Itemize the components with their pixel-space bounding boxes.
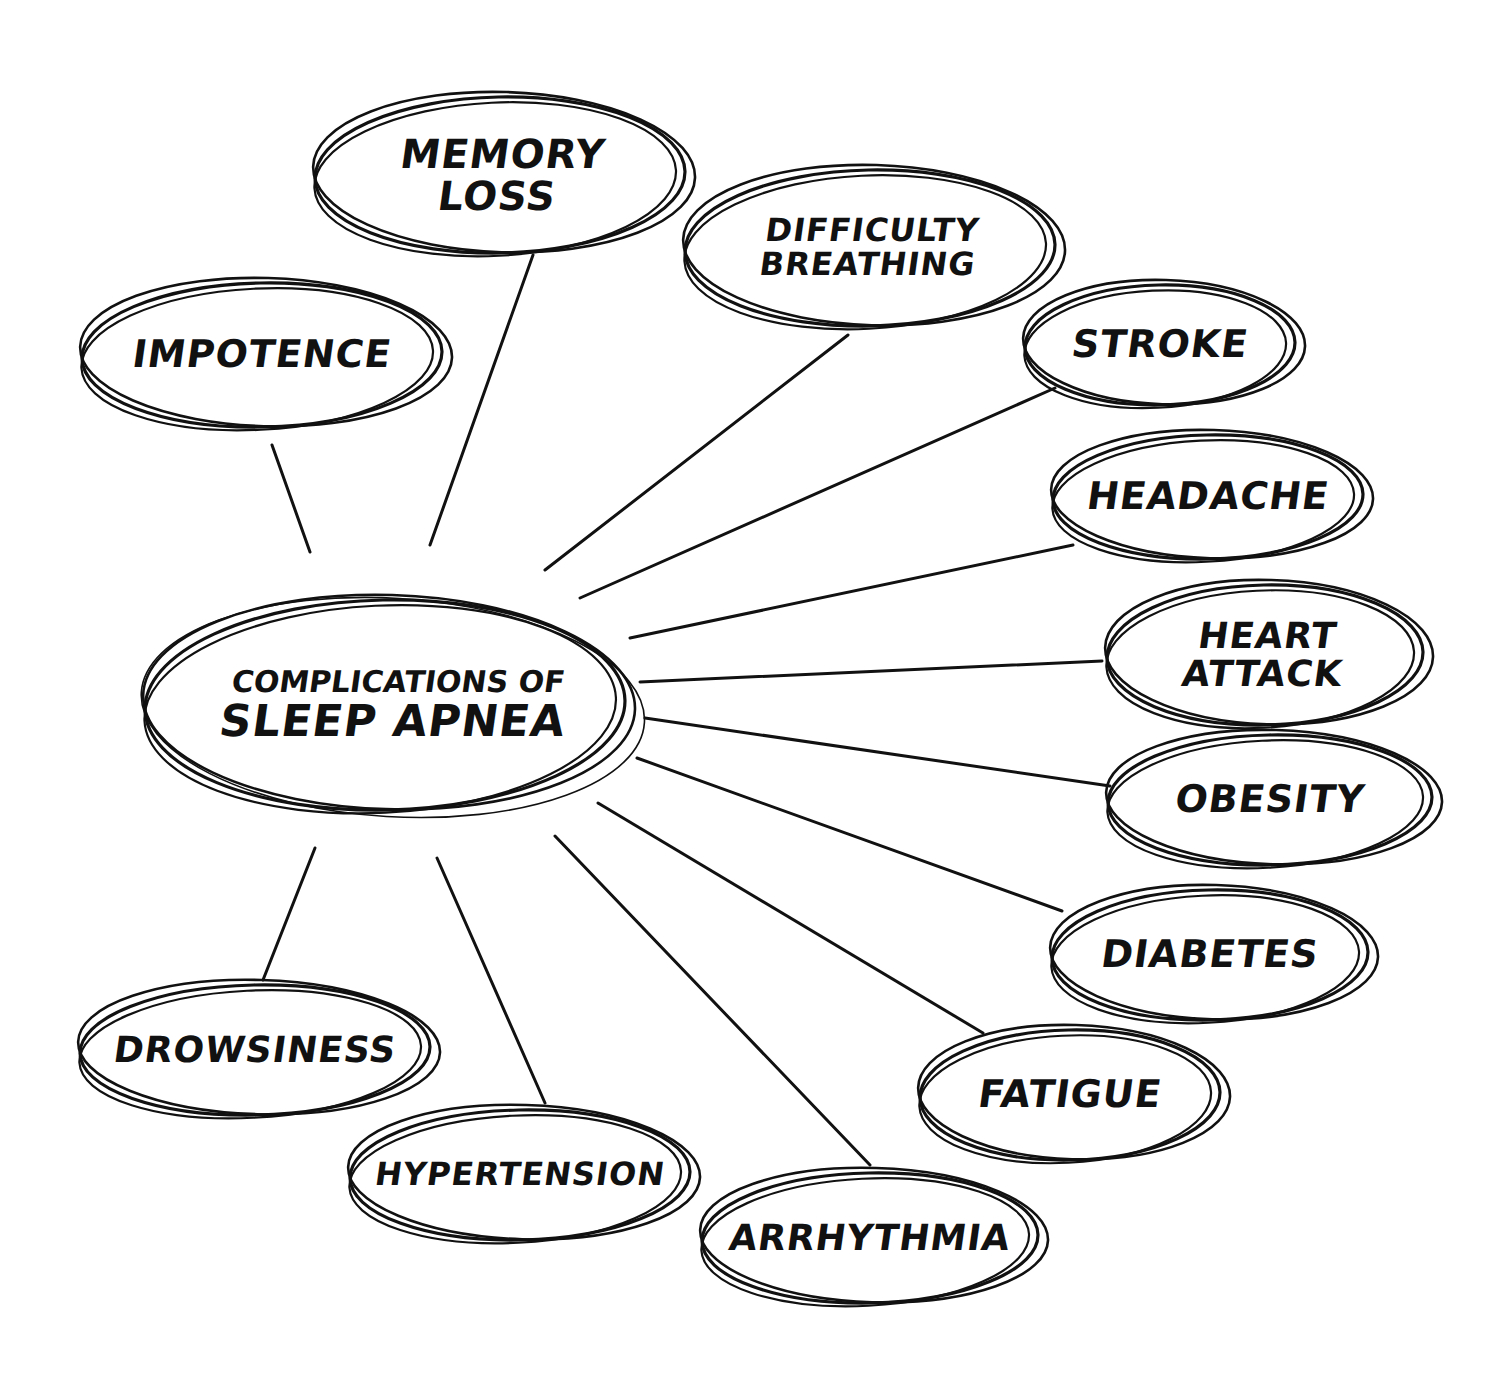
node-label-line: STROKE (1069, 325, 1251, 365)
node-label-line: HYPERTENSION (373, 1158, 668, 1192)
node-label-line: LOSS (392, 175, 602, 217)
node-label-heart-attack: HEARTATTACK (1179, 617, 1350, 693)
node-label-fatigue: FATIGUE (976, 1075, 1165, 1115)
connector-impotence (272, 445, 310, 552)
node-label-line: DROWSINESS (111, 1031, 399, 1069)
node-label-memory-loss: MEMORYLOSS (392, 133, 608, 217)
connector-drowsiness (263, 848, 315, 980)
connector-fatigue (598, 803, 983, 1033)
node-label-line: DIFFICULTY (762, 214, 982, 248)
node-label-hypertension: HYPERTENSION (373, 1158, 668, 1192)
connector-headache (630, 545, 1073, 638)
node-label-obesity: OBESITY (1173, 780, 1368, 820)
node-label-line: MEMORY (398, 133, 608, 175)
node-label-stroke: STROKE (1069, 325, 1251, 365)
node-label-difficulty-breathing: DIFFICULTYBREATHING (757, 214, 982, 281)
connector-heart-attack (640, 661, 1102, 682)
connector-memory-loss (430, 255, 533, 545)
node-label-headache: HEADACHE (1084, 477, 1331, 517)
center-topic-label: Complications of Sleep Apnea (217, 666, 574, 744)
node-label-impotence: IMPOTENCE (130, 335, 394, 375)
node-label-line: BREATHING (757, 248, 977, 282)
center-topic-line1: Complications of (223, 666, 573, 698)
connector-obesity (645, 718, 1110, 786)
node-label-line: FATIGUE (976, 1075, 1165, 1115)
node-label-line: HEART (1185, 617, 1351, 655)
node-label-line: DIABETES (1099, 935, 1322, 975)
node-label-arrhythmia: ARRHYTHMIA (727, 1219, 1014, 1257)
mind-map-canvas: Complications of Sleep Apnea IMPOTENCEME… (0, 0, 1499, 1382)
connector-diabetes (637, 758, 1062, 911)
connector-difficulty-breathing (545, 335, 848, 570)
node-label-line: OBESITY (1173, 780, 1368, 820)
node-label-drowsiness: DROWSINESS (111, 1031, 399, 1069)
node-label-line: HEADACHE (1084, 477, 1331, 517)
node-label-line: IMPOTENCE (130, 335, 394, 375)
node-label-diabetes: DIABETES (1099, 935, 1322, 975)
node-label-line: ARRHYTHMIA (727, 1219, 1014, 1257)
connector-hypertension (437, 858, 545, 1103)
connector-stroke (580, 388, 1055, 598)
node-label-line: ATTACK (1179, 655, 1345, 693)
center-topic-line2: Sleep Apnea (217, 698, 569, 744)
